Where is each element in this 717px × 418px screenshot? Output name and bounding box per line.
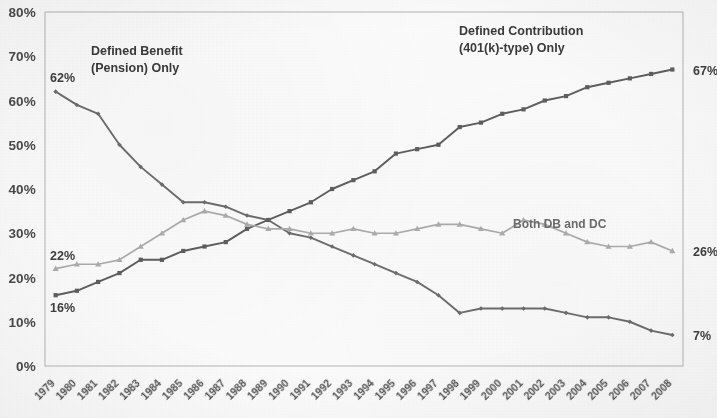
end-value-label: 7%: [693, 329, 711, 343]
data-point-marker: [160, 258, 164, 262]
start-value-label: 62%: [50, 71, 75, 85]
retirement-plan-trend-chart: 0%10%20%30%40%50%60%70%80% 1979198019811…: [0, 0, 717, 418]
y-axis-tick-labels: 0%10%20%30%40%50%60%70%80%: [8, 5, 36, 374]
data-point-marker: [628, 76, 632, 80]
end-value-label: 67%: [693, 64, 717, 78]
data-point-marker: [543, 98, 547, 102]
end-value-label: 26%: [693, 245, 717, 259]
data-point-marker: [54, 293, 58, 297]
data-point-marker: [181, 249, 185, 253]
data-point-marker: [458, 125, 462, 129]
dc-annotation-line1: Defined Contribution: [459, 24, 583, 38]
data-point-marker: [96, 280, 100, 284]
db-annotation-line2: (Pension) Only: [91, 61, 179, 75]
chart-canvas: 0%10%20%30%40%50%60%70%80% 1979198019811…: [0, 0, 717, 418]
data-point-marker: [202, 244, 206, 248]
db-annotation-line1: Defined Benefit: [91, 44, 184, 58]
y-axis-tick-label: 30%: [8, 226, 36, 241]
y-axis-tick-label: 10%: [8, 315, 36, 330]
data-point-marker: [670, 67, 674, 71]
data-point-marker: [479, 121, 483, 125]
data-point-marker: [287, 209, 291, 213]
data-point-marker: [245, 227, 249, 231]
start-value-label: 16%: [50, 301, 75, 315]
data-point-marker: [415, 147, 419, 151]
data-point-marker: [266, 218, 270, 222]
data-point-marker: [351, 178, 355, 182]
y-axis-tick-label: 40%: [8, 182, 36, 197]
y-axis-tick-label: 60%: [8, 94, 36, 109]
both-annotation: Both DB and DC: [513, 217, 607, 231]
y-axis-tick-label: 50%: [8, 138, 36, 153]
data-point-marker: [139, 258, 143, 262]
data-point-marker: [75, 289, 79, 293]
data-point-marker: [224, 240, 228, 244]
both-annotation-line1: Both DB and DC: [513, 217, 607, 231]
y-axis-tick-label: 20%: [8, 271, 36, 286]
data-point-marker: [564, 94, 568, 98]
dc-annotation-line2: (401(k)-type) Only: [459, 41, 565, 55]
data-point-marker: [373, 169, 377, 173]
data-point-marker: [500, 112, 504, 116]
data-point-marker: [436, 143, 440, 147]
data-point-marker: [649, 72, 653, 76]
data-point-marker: [330, 187, 334, 191]
data-point-marker: [521, 107, 525, 111]
data-point-marker: [606, 81, 610, 85]
y-axis-tick-label: 0%: [16, 359, 36, 374]
data-point-marker: [309, 200, 313, 204]
data-point-marker: [585, 85, 589, 89]
start-value-label: 22%: [50, 249, 75, 263]
y-axis-tick-label: 80%: [8, 5, 36, 20]
data-point-marker: [117, 271, 121, 275]
y-axis-tick-label: 70%: [8, 49, 36, 64]
data-point-marker: [394, 152, 398, 156]
